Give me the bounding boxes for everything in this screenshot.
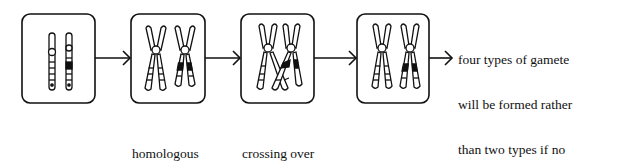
stage-2-chromosomes	[145, 26, 195, 90]
arrow-2-to-3	[205, 51, 240, 65]
caption-line: will be formed rather	[458, 97, 586, 112]
stage-3-caption: crossing over takes place	[242, 116, 314, 166]
arrow-1-to-2	[95, 51, 130, 65]
arrow-3-to-4	[314, 51, 356, 65]
caption-line: than two types if no	[458, 142, 586, 157]
stage-4-chromosomes	[372, 24, 420, 88]
arrow-4-to-outcome	[429, 51, 452, 65]
stage-3-box	[241, 14, 314, 103]
caption-line: four types of gamete	[458, 52, 586, 67]
stage-2-caption: homologous chromosomes replicate	[132, 116, 207, 166]
caption-line: homologous	[132, 146, 207, 161]
caption-line: crossing over	[242, 146, 314, 161]
outcome-caption: four types of gamete will be formed rath…	[458, 22, 586, 166]
stage-3-chromosomes	[257, 24, 302, 90]
stage-1-chromosomes	[49, 33, 73, 90]
stage-1-box	[22, 14, 95, 103]
